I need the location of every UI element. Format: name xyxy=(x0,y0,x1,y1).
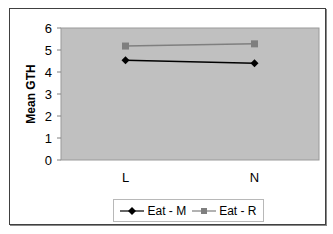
legend-label: Eat - R xyxy=(219,204,256,218)
square-marker-icon xyxy=(192,206,216,216)
x-axis: LN xyxy=(122,170,259,185)
square-marker-icon xyxy=(122,43,129,50)
x-tick-label: N xyxy=(250,170,259,185)
legend: Eat - M Eat - R xyxy=(113,199,264,222)
y-tick-label: 3 xyxy=(45,87,52,102)
plot-area xyxy=(61,28,319,160)
y-tick-label: 0 xyxy=(45,153,52,168)
y-axis: 0123456 xyxy=(45,21,61,168)
x-tick-label: L xyxy=(122,170,129,185)
legend-label: Eat - M xyxy=(147,204,186,218)
y-axis-label: Mean GTH xyxy=(24,64,38,123)
y-tick-label: 2 xyxy=(45,109,52,124)
y-tick-label: 4 xyxy=(45,65,52,80)
legend-item-eat-r: Eat - R xyxy=(192,204,256,218)
diamond-marker-icon xyxy=(120,206,144,216)
y-tick-label: 1 xyxy=(45,131,52,146)
y-tick-label: 5 xyxy=(45,43,52,58)
y-tick-label: 6 xyxy=(45,21,52,36)
square-marker-icon xyxy=(251,40,258,47)
legend-item-eat-m: Eat - M xyxy=(120,204,186,218)
